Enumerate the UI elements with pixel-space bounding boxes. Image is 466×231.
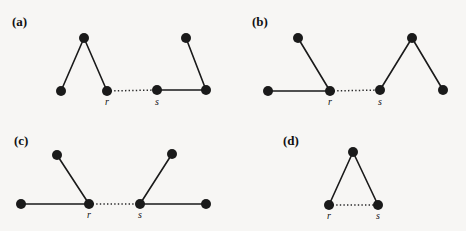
edge-d-top-d-s [353, 152, 378, 205]
edges-c [21, 154, 206, 204]
edge-d-r-d-top [329, 152, 353, 205]
node-b-n6[interactable] [438, 85, 448, 95]
edges-a [61, 38, 206, 91]
node-b-n5[interactable] [407, 33, 417, 43]
nodes-b: rs [263, 33, 448, 107]
edges-d [329, 152, 378, 205]
vertex-label-c-s: s [138, 209, 142, 220]
edge-b-s-b-n5 [380, 38, 412, 90]
panel-label-c: (c) [14, 133, 28, 148]
node-a-s[interactable] [152, 85, 162, 95]
panel-a: (a)rs [12, 14, 211, 107]
vertex-label-b-r: r [328, 96, 332, 107]
nodes-d: rs [324, 147, 383, 221]
nodes-c: rs [16, 149, 211, 220]
node-b-s[interactable] [375, 85, 385, 95]
node-b-n2[interactable] [293, 33, 303, 43]
edge-a-r-a-s [107, 90, 157, 91]
edge-b-n2-b-r [298, 38, 330, 91]
vertex-label-c-r: r [87, 209, 91, 220]
node-a-n1[interactable] [56, 86, 66, 96]
panel-d: (d)rs [283, 133, 383, 221]
node-d-r[interactable] [324, 200, 334, 210]
node-b-r[interactable] [325, 86, 335, 96]
edge-a-n1-a-n2 [61, 38, 84, 91]
node-a-n6[interactable] [181, 33, 191, 43]
node-c-n1[interactable] [16, 199, 26, 209]
panel-c: (c)rs [14, 133, 211, 220]
edge-a-n2-a-r [84, 38, 107, 91]
edge-c-s-c-n5 [140, 154, 172, 204]
node-c-n5[interactable] [167, 149, 177, 159]
node-d-s[interactable] [373, 200, 383, 210]
panel-b: (b)rs [252, 14, 448, 107]
vertex-label-d-s: s [376, 210, 380, 221]
node-c-n2[interactable] [52, 150, 62, 160]
node-d-top[interactable] [348, 147, 358, 157]
node-b-n1[interactable] [263, 86, 273, 96]
node-a-n5[interactable] [201, 85, 211, 95]
panel-label-b: (b) [252, 14, 268, 29]
edges-b [268, 38, 443, 91]
vertex-label-b-s: s [378, 96, 382, 107]
graph-figure: (a)rs(b)rs(c)rs(d)rs [0, 0, 466, 231]
figure-canvas: (a)rs(b)rs(c)rs(d)rs [0, 0, 466, 231]
node-c-r[interactable] [84, 199, 94, 209]
edge-b-r-b-s [330, 90, 380, 91]
node-a-r[interactable] [102, 86, 112, 96]
node-c-n6[interactable] [201, 199, 211, 209]
vertex-label-a-r: r [105, 96, 109, 107]
vertex-label-a-s: s [155, 96, 159, 107]
vertex-label-d-r: r [327, 210, 331, 221]
edge-b-n5-b-n6 [412, 38, 443, 90]
panel-label-d: (d) [283, 133, 299, 148]
node-a-n2[interactable] [79, 33, 89, 43]
edge-c-n2-c-r [57, 155, 89, 204]
node-c-s[interactable] [135, 199, 145, 209]
panel-label-a: (a) [12, 14, 27, 29]
edge-a-n5-a-n6 [186, 38, 206, 90]
